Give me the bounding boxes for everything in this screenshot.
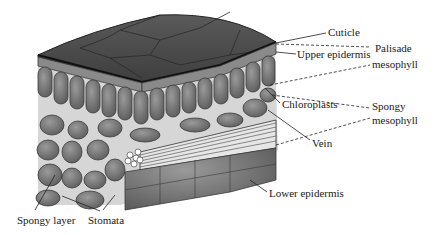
- label-spongy-layer: Spongy layer: [17, 214, 75, 226]
- label-spongy-line2: mesophyll: [372, 114, 418, 126]
- label-upper-epidermis: Upper epidermis: [297, 48, 371, 60]
- label-vein: Vein: [312, 137, 332, 149]
- label-palisade-line2: mesophyll: [372, 58, 418, 70]
- label-spongy-line1: Spongy: [372, 100, 406, 112]
- label-palisade-line1: Palisade: [375, 42, 412, 54]
- label-cuticle: Cuticle: [328, 26, 360, 38]
- label-chloroplasts: Chloroplasts: [282, 98, 338, 110]
- label-stomata: Stomata: [88, 214, 124, 226]
- label-lower-epidermis: Lower epidermis: [269, 187, 344, 199]
